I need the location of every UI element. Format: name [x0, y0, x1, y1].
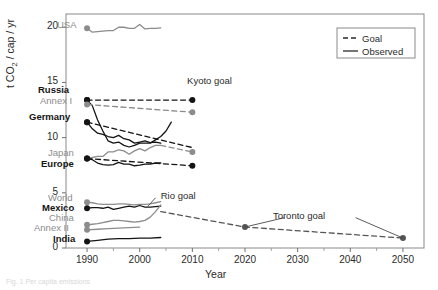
x-tick-label: 2010: [177, 254, 207, 265]
series-label-japan: Japan: [48, 148, 74, 158]
x-tick-label: 2020: [230, 254, 260, 265]
x-tick-label: 2050: [388, 254, 418, 265]
y-tick-label: 20: [38, 20, 58, 31]
x-tick-label: 1990: [72, 254, 102, 265]
legend-label-observed: Observed: [362, 46, 403, 57]
series-label-europe: Europe: [41, 159, 74, 169]
x-tick-label: 2030: [283, 254, 313, 265]
series-start-marker-mexico: [84, 205, 90, 211]
series-label-india: India: [53, 234, 75, 244]
x-axis-title: Year: [205, 268, 226, 280]
annotation-toronto-goal: Toronto goal: [273, 210, 325, 221]
series-start-marker-india: [84, 238, 90, 244]
series-start-marker-germany-goal: [84, 119, 90, 125]
x-tick-label: 2040: [335, 254, 365, 265]
series-label-usa: USA: [57, 20, 77, 30]
series-start-marker-europe-goal: [84, 156, 90, 162]
rio-goal-leader: [148, 198, 156, 207]
series-line-annex-i: [87, 105, 192, 113]
series-label-annex-ii: Annex II: [34, 223, 69, 233]
series-label-germany: Germany: [29, 112, 70, 122]
figure-caption: Fig. 1 Per capita emissions: [6, 278, 90, 285]
series-label-russia: Russia: [38, 85, 69, 95]
y-axis-title: t CO2 / cap / yr: [4, 19, 19, 88]
figure-container: t CO2 / cap / yr Year 199020002010202020…: [0, 0, 438, 290]
x-tick-label: 2000: [125, 254, 155, 265]
series-line-usa: [87, 24, 161, 32]
series-end-marker-annex-i: [189, 109, 195, 115]
series-line-mexico: [87, 206, 161, 210]
annotation-rio-goal: Rio goal: [161, 190, 196, 201]
series-start-marker-world: [84, 199, 90, 205]
series-end-marker-russia-goal: [189, 97, 195, 103]
series-end-marker-japan-goal: [189, 149, 195, 155]
series-line-annex-ii: [87, 227, 140, 230]
series-end-marker-europe-goal: [189, 163, 195, 169]
series-start-marker-annex-i: [84, 102, 90, 108]
series-line-india: [87, 238, 161, 242]
annotation-kyoto-goal: Kyoto goal: [187, 75, 232, 86]
legend-label-goal: Goal: [362, 33, 382, 44]
y-tick-label: 10: [38, 131, 58, 142]
series-line-japan: [87, 145, 161, 158]
series-label-annex-i: Annex I: [40, 96, 72, 106]
series-start-marker-annex-ii: [84, 227, 90, 233]
series-start-marker-usa: [84, 25, 90, 31]
